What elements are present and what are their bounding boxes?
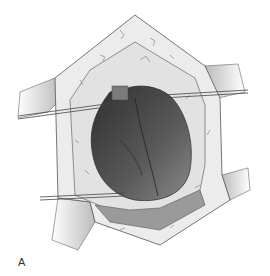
surgical-illustration <box>0 0 270 276</box>
panel-label: A <box>18 256 25 268</box>
heart <box>91 86 191 201</box>
